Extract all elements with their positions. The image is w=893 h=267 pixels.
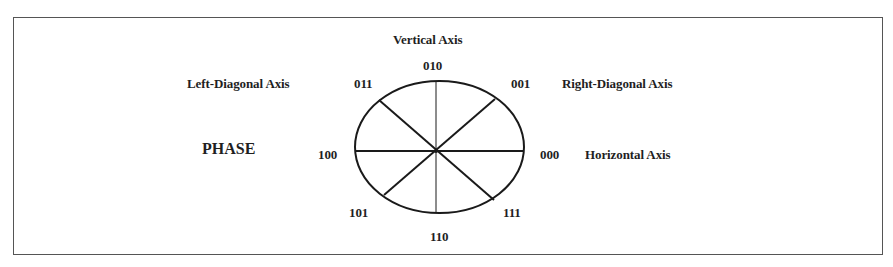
- phase-code-110: 110: [430, 230, 448, 243]
- left-diagonal-axis-label: Left-Diagonal Axis: [187, 77, 290, 90]
- phase-code-000: 000: [540, 148, 559, 161]
- right-diagonal-axis-label: Right-Diagonal Axis: [562, 77, 672, 90]
- center-point: [434, 149, 438, 153]
- right-diagonal-axis-line: [384, 99, 495, 195]
- phase-code-100: 100: [318, 148, 337, 161]
- phase-wheel: [355, 81, 524, 213]
- horizontal-axis-label: Horizontal Axis: [585, 148, 671, 161]
- phase-code-111: 111: [503, 206, 521, 219]
- phase-code-101: 101: [349, 206, 368, 219]
- phase-code-011: 011: [354, 77, 372, 90]
- phase-title: PHASE: [202, 141, 255, 157]
- phase-code-001: 001: [511, 77, 530, 90]
- phase-code-010: 010: [423, 59, 442, 72]
- vertical-axis-label: Vertical Axis: [393, 33, 462, 46]
